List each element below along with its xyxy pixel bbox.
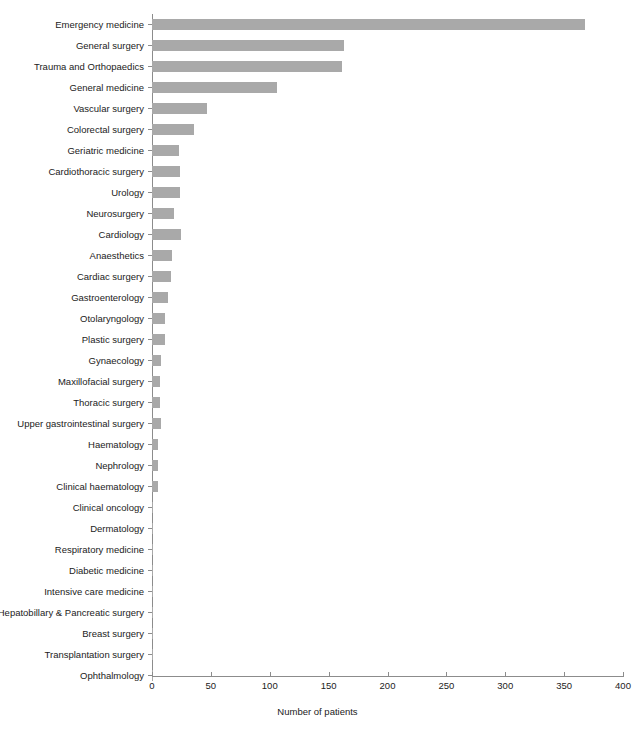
category-label: Gynaecology: [0, 350, 144, 371]
category-label: Plastic surgery: [0, 329, 144, 350]
bar: [152, 544, 153, 555]
bar-row: General medicine: [152, 77, 623, 98]
category-label: Haematology: [0, 434, 144, 455]
bar-row: Anaesthetics: [152, 245, 623, 266]
bar: [152, 649, 153, 660]
bar: [152, 208, 174, 219]
bar-row: Cardiology: [152, 224, 623, 245]
bar-row: Urology: [152, 182, 623, 203]
bar-row: Gynaecology: [152, 350, 623, 371]
bar-row: Dermatology: [152, 518, 623, 539]
x-tick-label: 150: [321, 680, 337, 691]
bar: [152, 586, 153, 597]
bar: [152, 481, 158, 492]
bar: [152, 460, 158, 471]
x-tick-label: 400: [615, 680, 631, 691]
bar-row: Cardiothoracic surgery: [152, 161, 623, 182]
category-label: Vascular surgery: [0, 98, 144, 119]
category-label: Clinical oncology: [0, 497, 144, 518]
x-tick-mark: [329, 672, 330, 677]
category-label: Upper gastrointestinal surgery: [0, 413, 144, 434]
bar-row: Otolaryngology: [152, 308, 623, 329]
x-tick-label: 100: [262, 680, 278, 691]
bar: [152, 523, 153, 534]
bar-row: Diabetic medicine: [152, 560, 623, 581]
plot-area: Emergency medicineGeneral surgeryTrauma …: [152, 14, 623, 676]
bar-row: Vascular surgery: [152, 98, 623, 119]
bar-row: Haematology: [152, 434, 623, 455]
bar: [152, 607, 153, 618]
category-label: Urology: [0, 182, 144, 203]
bar: [152, 124, 194, 135]
category-label: Cardiac surgery: [0, 266, 144, 287]
bar: [152, 502, 153, 513]
category-label: Neurosurgery: [0, 203, 144, 224]
x-tick-mark: [446, 672, 447, 677]
bar-row: Trauma and Orthopaedics: [152, 56, 623, 77]
bar-row: Colorectal surgery: [152, 119, 623, 140]
bar-row: Plastic surgery: [152, 329, 623, 350]
bar: [152, 145, 179, 156]
category-label: Colorectal surgery: [0, 119, 144, 140]
category-label: Anaesthetics: [0, 245, 144, 266]
category-label: Geriatric medicine: [0, 140, 144, 161]
bar: [152, 166, 180, 177]
bar-row: Respiratory medicine: [152, 539, 623, 560]
bar-row: Upper gastrointestinal surgery: [152, 413, 623, 434]
bar-row: Geriatric medicine: [152, 140, 623, 161]
bar: [152, 313, 165, 324]
bar-row: Neurosurgery: [152, 203, 623, 224]
bar-row: Cardiac surgery: [152, 266, 623, 287]
bar-row: Emergency medicine: [152, 14, 623, 35]
category-label: Ophthalmology: [0, 665, 144, 686]
bar-row: Clinical oncology: [152, 497, 623, 518]
bar-row: Thoracic surgery: [152, 392, 623, 413]
category-label: Cardiothoracic surgery: [0, 161, 144, 182]
bar: [152, 103, 207, 114]
x-tick-label: 250: [438, 680, 454, 691]
category-label: Diabetic medicine: [0, 560, 144, 581]
bar: [152, 250, 172, 261]
x-tick-mark: [623, 672, 624, 677]
x-tick-label: 50: [206, 680, 217, 691]
bar-row: Intensive care medicine: [152, 581, 623, 602]
bar-row: Gastroenterology: [152, 287, 623, 308]
x-tick-mark: [564, 672, 565, 677]
category-label: Gastroenterology: [0, 287, 144, 308]
category-label: Dermatology: [0, 518, 144, 539]
bar: [152, 187, 180, 198]
x-tick-mark: [152, 672, 153, 677]
bar: [152, 565, 153, 576]
bar: [152, 40, 344, 51]
category-label: Intensive care medicine: [0, 581, 144, 602]
bar: [152, 628, 153, 639]
category-label: Nephrology: [0, 455, 144, 476]
category-label: Thoracic surgery: [0, 392, 144, 413]
category-label: Clinical haematology: [0, 476, 144, 497]
bar-rows: Emergency medicineGeneral surgeryTrauma …: [152, 14, 623, 686]
x-tick-label: 350: [556, 680, 572, 691]
x-tick-mark: [388, 672, 389, 677]
bar: [152, 334, 165, 345]
bar: [152, 376, 160, 387]
bar: [152, 439, 158, 450]
bar: [152, 229, 181, 240]
bar-chart: Emergency medicineGeneral surgeryTrauma …: [0, 0, 635, 735]
x-tick-mark: [270, 672, 271, 677]
bar: [152, 292, 168, 303]
category-label: Transplantation surgery: [0, 644, 144, 665]
category-label: General surgery: [0, 35, 144, 56]
bar-row: General surgery: [152, 35, 623, 56]
category-label: Emergency medicine: [0, 14, 144, 35]
category-label: Hepatobillary & Pancreatic surgery: [0, 602, 144, 623]
x-axis-ticks: 050100150200250300350400: [152, 676, 623, 706]
bar-row: Nephrology: [152, 455, 623, 476]
category-label: Respiratory medicine: [0, 539, 144, 560]
category-label: General medicine: [0, 77, 144, 98]
bar: [152, 19, 585, 30]
bar: [152, 82, 277, 93]
x-tick-mark: [505, 672, 506, 677]
bar: [152, 418, 161, 429]
bar-row: Transplantation surgery: [152, 644, 623, 665]
bar: [152, 61, 342, 72]
